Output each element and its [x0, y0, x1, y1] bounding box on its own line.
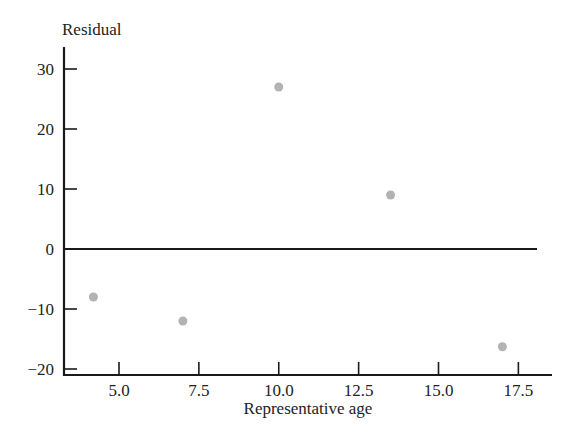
y-tick-label: −20	[27, 360, 54, 379]
y-tick-label: 10	[37, 180, 54, 199]
y-tick-label: 30	[37, 60, 54, 79]
data-point	[498, 342, 507, 351]
y-tick-label: 20	[37, 120, 54, 139]
x-axis-label: Representative age	[244, 399, 373, 418]
x-tick-label: 5.0	[108, 381, 129, 400]
y-ticks: −20−100102030	[27, 60, 77, 379]
y-axis-label: Residual	[62, 20, 122, 39]
residual-plot: Residual −20−100102030 5.07.510.012.515.…	[0, 0, 563, 436]
x-tick-label: 10.0	[264, 381, 294, 400]
y-tick-label: −10	[27, 300, 54, 319]
x-tick-label: 12.5	[344, 381, 374, 400]
data-point	[386, 191, 395, 200]
data-point	[178, 317, 187, 326]
data-point	[89, 293, 98, 302]
x-tick-label: 15.0	[424, 381, 454, 400]
data-point	[274, 83, 283, 92]
data-points	[89, 83, 507, 352]
y-tick-label: 0	[46, 240, 55, 259]
x-tick-label: 17.5	[504, 381, 534, 400]
x-ticks: 5.07.510.012.515.017.5	[108, 362, 533, 400]
x-tick-label: 7.5	[188, 381, 209, 400]
